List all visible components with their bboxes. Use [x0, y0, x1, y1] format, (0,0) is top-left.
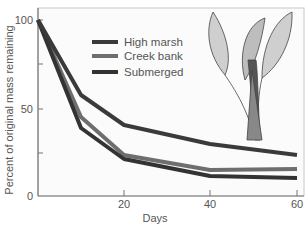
y-tick-label-0: 0: [27, 190, 33, 202]
y-tick-label-50: 50: [21, 103, 33, 115]
legend: High marsh Creek bank Submerged: [92, 36, 183, 78]
x-axis-title: Days: [142, 212, 168, 224]
x-tick-label-20: 20: [118, 198, 130, 210]
legend-label-submerged: Submerged: [124, 66, 183, 78]
y-tick-label-100: 100: [15, 14, 33, 26]
y-axis-title: Percent of original mass remaining: [3, 25, 15, 194]
x-tick-label-40: 40: [204, 198, 216, 210]
decomposition-chart: 100 50 0 20 40 60 Days Percent of origin…: [0, 0, 308, 227]
legend-label-creek-bank: Creek bank: [124, 50, 183, 62]
legend-label-high-marsh: High marsh: [124, 36, 183, 48]
x-tick-label-60: 60: [291, 198, 303, 210]
